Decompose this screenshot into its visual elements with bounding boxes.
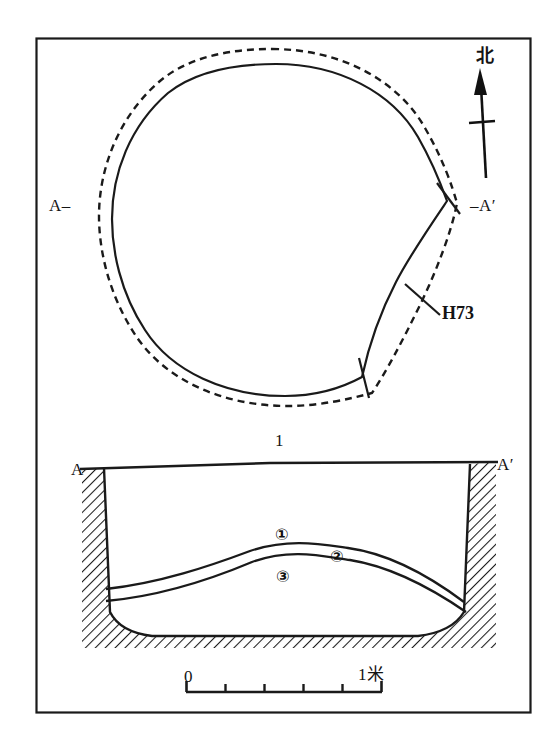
layer-marker-3: ③ (276, 569, 290, 585)
section-corner-label-a-prime: A′ (497, 456, 514, 473)
scale-bar-end-label: 1米 (358, 666, 384, 683)
section-line-label-a: A– (49, 197, 71, 214)
figure-number: 1 (275, 432, 284, 449)
scale-bar-start-label: 0 (184, 668, 193, 685)
section-line-label-a-prime: –A′ (470, 197, 496, 214)
layer-marker-2: ② (330, 549, 344, 565)
layer-marker-1: ① (275, 527, 289, 543)
feature-id-label: H73 (442, 304, 474, 322)
figure-root: A– –A′ H73 北 1 A A′ ① ② ③ 0 1米 (0, 0, 558, 744)
section-corner-label-a: A (71, 461, 84, 478)
north-label: 北 (476, 47, 494, 65)
figure-drawing (0, 0, 558, 744)
